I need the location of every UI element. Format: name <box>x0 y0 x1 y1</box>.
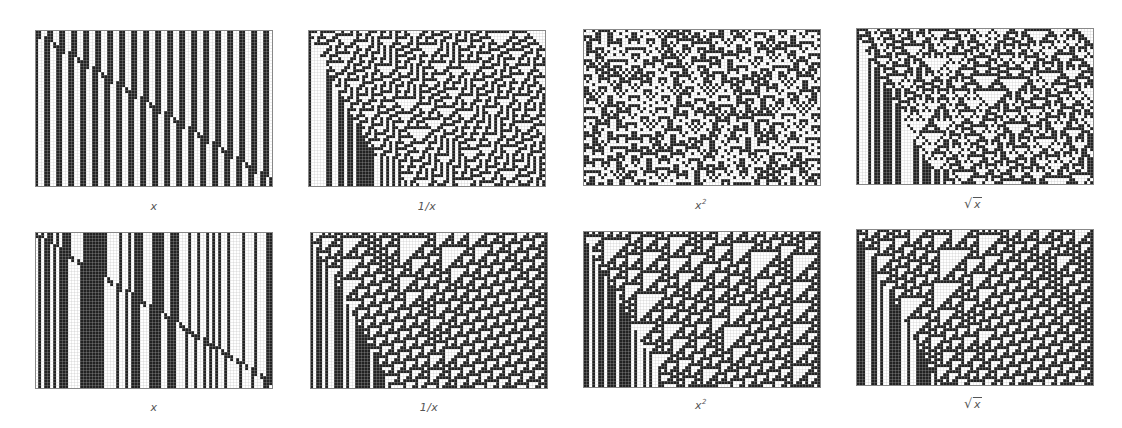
label-r2-sqrt-x: √x <box>853 396 1093 411</box>
label-radicand: x <box>973 397 982 411</box>
label-r1-x-squared: x2 <box>581 198 821 212</box>
panel-r1-sqrt-x <box>856 28 1094 185</box>
ca-grid-sqrt-x <box>856 28 1094 185</box>
panel-r2-x <box>35 232 273 389</box>
ca-grid-x <box>35 232 273 389</box>
label-r2-inverse-x: 1/x <box>309 401 549 414</box>
panel-r2-x-squared <box>583 231 821 388</box>
panel-r1-x <box>35 30 273 187</box>
ca-grid-inverse-x <box>308 30 546 187</box>
ca-grid-x-squared <box>583 29 821 186</box>
label-text: 1/x <box>418 200 437 213</box>
label-text: 1/x <box>420 401 439 414</box>
label-r1-x: x <box>34 200 274 213</box>
label-r2-x: x <box>34 401 274 414</box>
label-text: x <box>150 401 157 414</box>
label-r2-x-squared: x2 <box>581 398 821 412</box>
ca-grid-inverse-x <box>310 232 548 389</box>
panel-r2-sqrt-x <box>856 229 1094 386</box>
label-text: x <box>150 200 157 213</box>
panel-r1-x-squared <box>583 29 821 186</box>
ca-grid-x-squared <box>583 231 821 388</box>
label-r1-sqrt-x: √x <box>853 196 1093 211</box>
label-exponent: 2 <box>702 398 707 406</box>
label-exponent: 2 <box>702 198 707 206</box>
sqrt-radical-icon: √ <box>964 396 973 411</box>
label-base: x <box>695 199 702 212</box>
panel-r2-inverse-x <box>310 232 548 389</box>
ca-grid-sqrt-x <box>856 229 1094 386</box>
label-r1-inverse-x: 1/x <box>307 200 547 213</box>
sqrt-radical-icon: √ <box>964 196 973 211</box>
ca-grid-x <box>35 30 273 187</box>
panel-r1-inverse-x <box>308 30 546 187</box>
label-base: x <box>695 399 702 412</box>
label-radicand: x <box>973 197 982 211</box>
